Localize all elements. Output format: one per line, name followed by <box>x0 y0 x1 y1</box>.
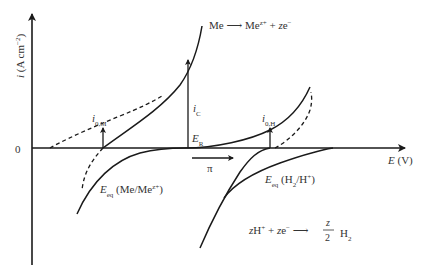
i0H-label: i0,H <box>262 112 275 128</box>
ER-label: ER <box>191 132 204 148</box>
i0M-label: i0,M <box>92 112 107 128</box>
fraction-denominator: 2 <box>325 232 330 243</box>
hydrogen-dashed <box>275 92 312 148</box>
hydrogen-upper-curve <box>185 87 310 148</box>
metal-lower-curve <box>77 148 185 214</box>
fraction-numerator: z <box>325 217 330 228</box>
pi-label: π <box>207 162 213 174</box>
polarization-diagram: i (A cm−2) 0 E (V) Me ⟶ Mez+ + ze− i0,M … <box>0 0 427 275</box>
eq-h-label: Eeq (H2/H+) <box>264 173 315 189</box>
eq-me-label: Eeq (Me/Mez+) <box>99 183 163 199</box>
y-axis-label: i (A cm−2) <box>14 34 27 78</box>
metal-anodic-curve <box>103 26 202 148</box>
origin-label: 0 <box>15 143 21 155</box>
iC-label: iC <box>193 102 201 118</box>
x-axis-label: E (V) <box>387 154 413 167</box>
cathodic-reaction-label: zH+ + ze− ⟶ <box>248 224 309 236</box>
h2-label: H2 <box>340 227 352 243</box>
anodic-reaction-label: Me ⟶ Mez+ + ze− <box>209 19 292 31</box>
